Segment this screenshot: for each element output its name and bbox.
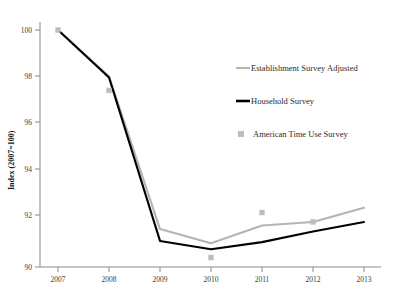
legend-item-household-survey: Household Survey xyxy=(236,96,315,106)
legend-item-american-time-use-survey: American Time Use Survey xyxy=(238,129,348,139)
y-axis-title: Index (2007=100) xyxy=(7,130,16,190)
legend-square-icon-atus xyxy=(238,131,244,137)
y-tick-label-98: 98 xyxy=(25,72,33,81)
atus-marker-2012 xyxy=(310,219,315,224)
y-axis-ticks: 90 92 94 96 98 100 xyxy=(21,26,40,272)
y-tick-label-96: 96 xyxy=(25,118,33,127)
y-tick-label-100: 100 xyxy=(21,26,33,35)
atus-marker-2007 xyxy=(55,27,60,32)
chart-container: Index (2007=100) 90 92 94 96 98 100 2007… xyxy=(0,0,397,290)
y-tick-label-94: 94 xyxy=(25,165,33,174)
x-tick-label-2013: 2013 xyxy=(357,275,372,284)
atus-marker-2008 xyxy=(106,88,111,93)
x-axis-ticks: 2007 2008 2009 2010 2011 2012 2013 xyxy=(51,267,372,284)
y-tick-label-90: 90 xyxy=(25,263,33,272)
legend-item-establishment-survey-adjusted: Establishment Survey Adjusted xyxy=(236,63,358,73)
x-tick-label-2012: 2012 xyxy=(306,275,321,284)
y-tick-label-92: 92 xyxy=(25,211,33,220)
x-tick-label-2010: 2010 xyxy=(204,275,219,284)
chart-legend: Establishment Survey Adjusted Household … xyxy=(236,63,358,139)
x-tick-label-2011: 2011 xyxy=(255,275,270,284)
atus-marker-2010 xyxy=(208,255,213,260)
atus-marker-2011 xyxy=(259,210,264,215)
x-tick-label-2007: 2007 xyxy=(51,275,66,284)
legend-label-establishment: Establishment Survey Adjusted xyxy=(251,63,358,73)
line-chart: Index (2007=100) 90 92 94 96 98 100 2007… xyxy=(0,0,397,290)
legend-label-household: Household Survey xyxy=(251,96,315,106)
x-tick-label-2009: 2009 xyxy=(153,275,168,284)
x-tick-label-2008: 2008 xyxy=(102,275,117,284)
legend-label-atus: American Time Use Survey xyxy=(253,129,348,139)
